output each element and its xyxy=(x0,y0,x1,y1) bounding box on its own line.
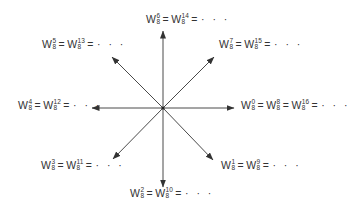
equals-sign: = xyxy=(163,13,169,25)
equals-sign: = xyxy=(263,159,269,171)
arrow-down-right xyxy=(163,108,213,160)
label-right: W08=W88=W168=· · · xyxy=(241,99,350,113)
twiddle-factor: W138 xyxy=(67,38,85,52)
equals-sign: = xyxy=(35,99,41,111)
twiddle-factor: W58 xyxy=(42,38,56,52)
label-bottom-right: W18=W98=· · · xyxy=(221,159,301,173)
equals-sign: = xyxy=(147,187,153,199)
equals-sign: = xyxy=(86,159,92,171)
label-left: W48=W128=· · · xyxy=(18,99,102,113)
label-top: W68=W148=· · · xyxy=(146,13,230,27)
twiddle-factor: W158 xyxy=(244,38,262,52)
arrow-down-left xyxy=(113,108,163,159)
ellipsis: · · · xyxy=(274,38,303,50)
equals-sign: = xyxy=(238,159,244,171)
equals-sign: = xyxy=(175,187,181,199)
twiddle-factor: W148 xyxy=(171,13,189,27)
ellipsis: · · · xyxy=(97,38,126,50)
twiddle-factor: W108 xyxy=(155,187,173,201)
twiddle-factor: W18 xyxy=(221,159,235,173)
twiddle-factor: W98 xyxy=(246,159,260,173)
equals-sign: = xyxy=(63,99,69,111)
label-top-left: W58=W138=· · · xyxy=(42,38,126,52)
equals-sign: = xyxy=(264,38,270,50)
ellipsis: · · · xyxy=(321,99,350,111)
equals-sign: = xyxy=(58,159,64,171)
arrow-up-right xyxy=(163,57,214,108)
label-top-right: W78=W158=· · · xyxy=(219,38,303,52)
twiddle-factor: W128 xyxy=(43,99,61,113)
ellipsis: · · · xyxy=(73,99,102,111)
origin-point xyxy=(161,106,164,109)
twiddle-factor: W168 xyxy=(291,99,309,113)
equals-sign: = xyxy=(258,99,264,111)
twiddle-factor: W88 xyxy=(266,99,280,113)
twiddle-factor: W68 xyxy=(146,13,160,27)
twiddle-factor: W48 xyxy=(18,99,32,113)
equals-sign: = xyxy=(312,99,318,111)
ellipsis: · · · xyxy=(185,187,214,199)
twiddle-factor: W38 xyxy=(41,159,55,173)
equals-sign: = xyxy=(59,38,65,50)
label-bottom-left: W38=W118=· · · xyxy=(41,159,124,173)
label-bottom: W28=W108=· · · xyxy=(130,187,214,201)
twiddle-factor: W118 xyxy=(66,159,83,173)
ellipsis: · · · xyxy=(201,13,230,25)
twiddle-factor: W78 xyxy=(219,38,233,52)
equals-sign: = xyxy=(191,13,197,25)
ellipsis: · · · xyxy=(272,159,301,171)
twiddle-factor: W28 xyxy=(130,187,144,201)
equals-sign: = xyxy=(236,38,242,50)
arrow-up-left xyxy=(112,57,163,108)
equals-sign: = xyxy=(87,38,93,50)
equals-sign: = xyxy=(283,99,289,111)
ellipsis: · · · xyxy=(96,159,125,171)
twiddle-factor: W08 xyxy=(241,99,255,113)
